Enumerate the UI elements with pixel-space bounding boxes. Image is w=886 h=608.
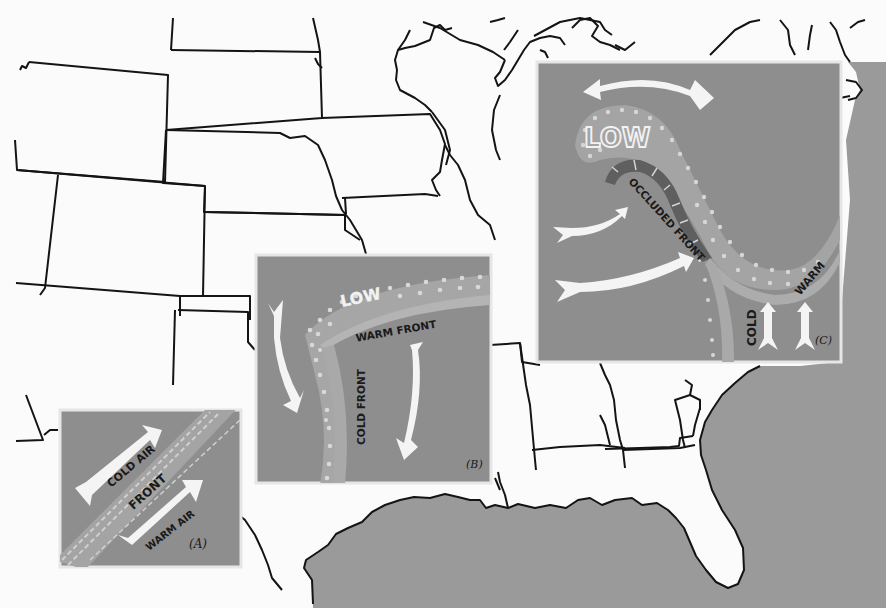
low-label-c: LOW xyxy=(584,123,650,153)
panel-c-id: (C) xyxy=(815,334,832,347)
weather-fronts-diagram: COLD AIR FRONT WARM AIR (A) xyxy=(0,0,886,608)
cold-label-c: COLD xyxy=(745,309,759,346)
panel-a-id: (A) xyxy=(189,537,207,551)
map-canvas: COLD AIR FRONT WARM AIR (A) xyxy=(0,0,886,608)
panel-b-id: (B) xyxy=(466,458,483,471)
panel-b: LOW WARM FRONT COLD FRONT (B) xyxy=(256,255,491,485)
panel-a: COLD AIR FRONT WARM AIR (A) xyxy=(55,400,245,570)
panel-c: LOW OCCLUDED FRONT COLD WARM (C) xyxy=(537,62,841,365)
cold-front-label: COLD FRONT xyxy=(355,368,367,445)
